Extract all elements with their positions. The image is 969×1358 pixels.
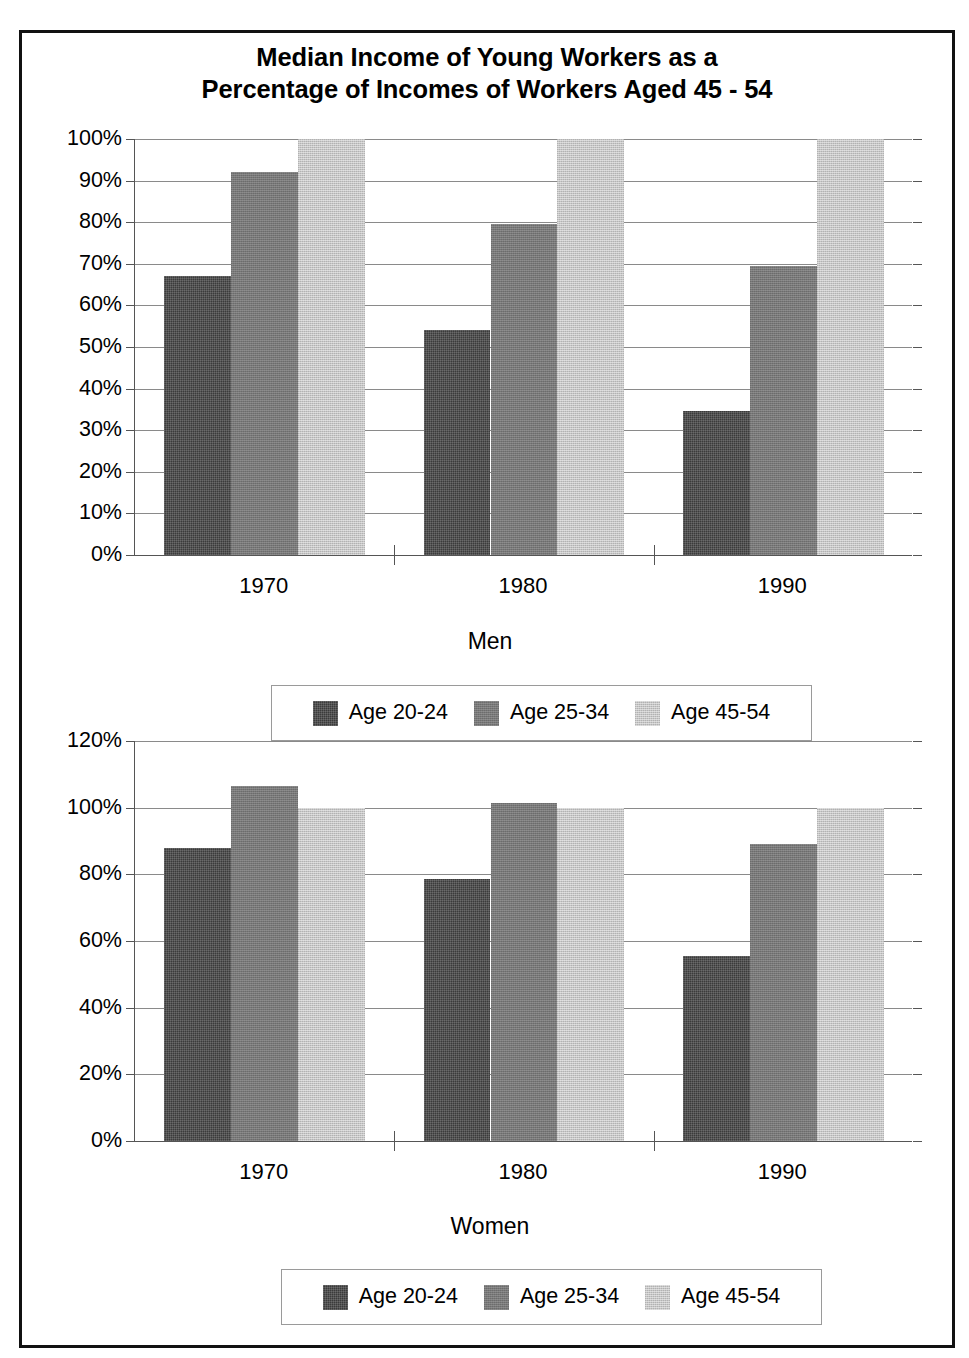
axis-title-men: Men [22,628,958,655]
y-axis-tick-label: 20% [79,461,122,483]
legend-item: Age 20-24 [323,1285,458,1310]
bar-1980-age-45-54 [557,139,624,555]
legend-item: Age 25-34 [484,1285,619,1310]
legend-swatch-icon [484,1285,509,1310]
y-axis-tick-right [913,1141,922,1142]
bar-1970-age-20-24 [164,276,231,555]
y-axis-tick-right [913,139,922,140]
legend-item: Age 45-54 [645,1285,780,1310]
y-axis-tick [126,139,135,140]
bar-1990-age-20-24 [683,956,750,1141]
bar-1990-age-20-24 [683,411,750,555]
y-axis-tick-right [913,874,922,875]
y-axis-tick-right [913,741,922,742]
y-axis-tick [126,264,135,265]
y-axis-tick-label: 100% [67,128,122,150]
y-axis-tick-right [913,941,922,942]
y-axis-tick [126,181,135,182]
bar-1980-age-45-54 [557,808,624,1141]
legend-label: Age 45-54 [681,1286,780,1308]
y-axis-tick-right [913,264,922,265]
legend-label: Age 25-34 [520,1286,619,1308]
y-axis-tick-label: 80% [79,864,122,886]
y-axis-tick-right [913,222,922,223]
bar-1990-age-25-34 [750,266,817,555]
page-title: Median Income of Young Workers as a Perc… [22,41,952,105]
legend-label: Age 20-24 [359,1286,458,1308]
chart-panel-men: 0%10%20%30%40%50%60%70%80%90%100% 197019… [22,103,958,763]
x-axis-tick-label: 1990 [758,1159,807,1185]
bar-1990-age-45-54 [817,808,884,1141]
bars-layer [135,741,912,1141]
bars-layer [135,139,912,555]
chart-panel-women: 0%20%40%60%80%100%120% 197019801990 Wome… [22,721,958,1331]
bar-1970-age-45-54 [298,139,365,555]
category-separator [654,1131,655,1151]
title-line-2: Percentage of Incomes of Workers Aged 45… [22,73,952,105]
y-axis-tick-label: 40% [79,378,122,400]
gridline [135,1141,912,1142]
bar-1970-age-25-34 [231,172,298,555]
y-axis-tick [126,1074,135,1075]
x-axis-tick-label: 1970 [239,573,288,599]
legend-swatch-icon [323,1285,348,1310]
bar-1980-age-25-34 [491,803,558,1141]
legend-swatch-icon [645,1285,670,1310]
y-axis-tick-label: 100% [67,797,122,819]
y-axis-tick-label: 60% [79,295,122,317]
y-axis-tick [126,1008,135,1009]
y-axis-tick-right [913,181,922,182]
y-axis-tick-right [913,472,922,473]
y-axis-tick [126,347,135,348]
y-axis-tick-right [913,1008,922,1009]
plot-area-women [134,741,912,1141]
x-axis-tick-label: 1980 [499,573,548,599]
y-axis-labels-women: 0%20%40%60%80%100%120% [22,741,122,1141]
x-axis-tick-label: 1970 [239,1159,288,1185]
y-axis-tick-label: 0% [91,1130,122,1152]
y-axis-tick-right [913,305,922,306]
y-axis-tick-label: 40% [79,997,122,1019]
y-axis-tick-label: 90% [79,170,122,192]
y-axis-tick [126,430,135,431]
y-axis-tick-label: 80% [79,211,122,233]
y-axis-tick [126,513,135,514]
bar-1970-age-25-34 [231,786,298,1141]
y-axis-tick-right [913,808,922,809]
chart-frame: Median Income of Young Workers as a Perc… [19,30,955,1348]
y-axis-tick-label: 120% [67,730,122,752]
y-axis-tick-label: 0% [91,544,122,566]
y-axis-tick [126,808,135,809]
y-axis-tick-right [913,513,922,514]
legend-women: Age 20-24Age 25-34Age 45-54 [281,1269,822,1325]
y-axis-tick [126,555,135,556]
y-axis-tick-right [913,430,922,431]
y-axis-labels-men: 0%10%20%30%40%50%60%70%80%90%100% [22,139,122,555]
title-line-1: Median Income of Young Workers as a [256,43,717,71]
y-axis-tick [126,1141,135,1142]
y-axis-tick-label: 70% [79,253,122,275]
y-axis-tick-right [913,1074,922,1075]
y-axis-tick [126,389,135,390]
y-axis-tick [126,222,135,223]
bar-1970-age-20-24 [164,848,231,1141]
y-axis-tick [126,305,135,306]
category-separator [394,1131,395,1151]
bar-1970-age-45-54 [298,808,365,1141]
x-axis-tick-label: 1990 [758,573,807,599]
category-separator [654,545,655,565]
y-axis-tick-right [913,389,922,390]
x-axis-tick-label: 1980 [499,1159,548,1185]
bar-1980-age-25-34 [491,224,558,555]
y-axis-tick [126,941,135,942]
y-axis-tick-right [913,555,922,556]
bar-1980-age-20-24 [424,330,491,555]
y-axis-tick [126,472,135,473]
category-separator [394,545,395,565]
y-axis-tick-label: 50% [79,336,122,358]
y-axis-tick [126,741,135,742]
gridline [135,555,912,556]
bar-1980-age-20-24 [424,879,491,1141]
y-axis-tick-label: 10% [79,503,122,525]
axis-title-women: Women [22,1213,958,1240]
